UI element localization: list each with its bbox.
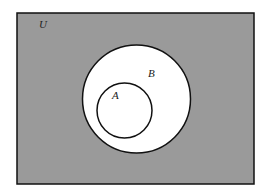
set-a-label: A <box>111 89 119 101</box>
venn-diagram: U B A <box>0 0 269 189</box>
universal-set-label: U <box>39 18 48 30</box>
set-a-circle <box>97 83 152 138</box>
set-b-label: B <box>148 67 155 79</box>
